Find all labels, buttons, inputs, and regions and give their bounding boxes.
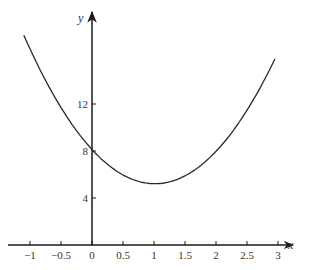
x-axis-label: x [287, 238, 294, 252]
y-tick-label: 8 [83, 145, 89, 157]
x-axis: −1−0.500.511.522.53 [8, 241, 293, 261]
x-tick-label: 2 [213, 249, 219, 261]
x-tick-label: 1 [151, 249, 157, 261]
y-axis-label: y [77, 11, 84, 25]
data-curve [24, 35, 275, 184]
x-tick-label: 1.5 [178, 249, 192, 261]
y-tick-label: 4 [83, 192, 89, 204]
y-axis: 4812 [77, 12, 96, 245]
y-tick-label: 12 [77, 98, 88, 110]
x-tick-label: 3 [275, 249, 281, 261]
chart: −1−0.500.511.522.53 4812 x y [0, 0, 310, 270]
x-tick-label: 0 [89, 249, 95, 261]
x-tick-label: 0.5 [116, 249, 130, 261]
x-tick-label: 2.5 [240, 249, 254, 261]
x-tick-label: −1 [24, 249, 36, 261]
x-tick-label: −0.5 [51, 249, 71, 261]
